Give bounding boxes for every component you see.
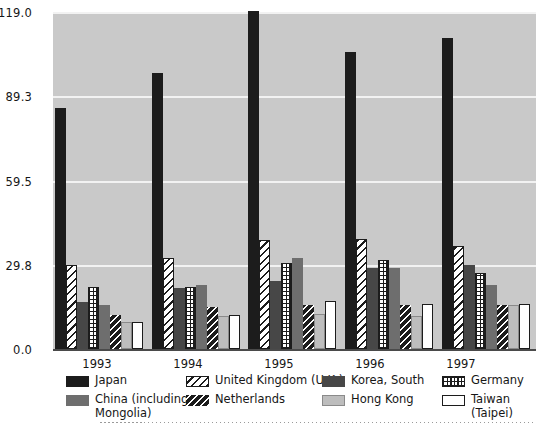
bar-1993-hong-kong[interactable] bbox=[121, 322, 132, 349]
bar-group-1996 bbox=[343, 12, 440, 349]
legend-label-japan: Japan bbox=[95, 374, 127, 388]
bar-1995-japan[interactable] bbox=[248, 11, 259, 349]
bar-1997-taiwan-taipei[interactable] bbox=[519, 304, 530, 349]
bar-1996-germany[interactable] bbox=[378, 260, 389, 349]
bar-1994-china-including-mongolia[interactable] bbox=[196, 285, 207, 349]
bar-1995-china-including-mongolia[interactable] bbox=[292, 258, 303, 349]
bar-1994-netherlands[interactable] bbox=[207, 307, 218, 349]
y-tick-label-29: 29.8 bbox=[0, 259, 32, 273]
legend-label-hong-kong: Hong Kong bbox=[351, 393, 414, 407]
legend-label-taiwan: Taiwan (Taipei) bbox=[471, 393, 513, 420]
legend-label-china: China (including Mongolia) bbox=[95, 393, 188, 420]
legend-swatch-japan bbox=[66, 376, 89, 387]
bar-1995-united-kingdom-uk[interactable] bbox=[259, 240, 270, 349]
legend-item-germany[interactable]: Germany bbox=[442, 374, 536, 388]
bar-1994-taiwan-taipei[interactable] bbox=[229, 315, 240, 349]
legend-item-hong-kong[interactable]: Hong Kong bbox=[322, 393, 452, 407]
y-tick-label-0: 0.0 bbox=[0, 343, 32, 357]
bar-1995-korea-south[interactable] bbox=[270, 281, 281, 349]
bars-layer bbox=[53, 12, 536, 349]
bar-group-1993 bbox=[53, 12, 150, 349]
bar-1995-taiwan-taipei[interactable] bbox=[325, 301, 336, 349]
bar-1996-taiwan-taipei[interactable] bbox=[422, 304, 433, 349]
bar-1997-japan[interactable] bbox=[442, 38, 453, 350]
x-tick-label-1993: 1993 bbox=[52, 357, 142, 371]
bar-1993-taiwan-taipei[interactable] bbox=[132, 322, 143, 349]
bar-1994-korea-south[interactable] bbox=[174, 288, 185, 349]
legend-item-china[interactable]: China (including Mongolia) bbox=[66, 393, 191, 420]
bar-group-1997 bbox=[439, 12, 536, 349]
bar-1993-china-including-mongolia[interactable] bbox=[99, 305, 110, 349]
x-tick-label-1997: 1997 bbox=[416, 357, 506, 371]
x-tick-label-1994: 1994 bbox=[143, 357, 233, 371]
x-tick-label-1996: 1996 bbox=[325, 357, 415, 371]
bar-1997-china-including-mongolia[interactable] bbox=[486, 285, 497, 349]
legend-swatch-korea-south bbox=[322, 376, 345, 387]
bar-1997-netherlands[interactable] bbox=[497, 305, 508, 349]
bar-1997-hong-kong[interactable] bbox=[508, 305, 519, 349]
bar-1996-hong-kong[interactable] bbox=[411, 316, 422, 349]
bar-1994-germany[interactable] bbox=[185, 287, 196, 349]
bar-group-1995 bbox=[246, 12, 343, 349]
legend-label-korea-south: Korea, South bbox=[351, 374, 424, 388]
legend-swatch-china bbox=[66, 395, 89, 406]
bar-1993-korea-south[interactable] bbox=[77, 302, 88, 349]
bar-1996-united-kingdom-uk[interactable] bbox=[356, 239, 367, 349]
legend-swatch-hong-kong bbox=[322, 395, 345, 406]
x-tick-label-1995: 1995 bbox=[234, 357, 324, 371]
bar-1994-japan[interactable] bbox=[152, 73, 163, 349]
legend-swatch-taiwan bbox=[442, 395, 465, 406]
bar-1996-netherlands[interactable] bbox=[400, 305, 411, 349]
bar-1996-china-including-mongolia[interactable] bbox=[389, 268, 400, 349]
bar-chart: 119.0 89.3 59.5 29.8 0.0 1993 1994 1995 … bbox=[0, 0, 536, 431]
y-tick-label-59: 59.5 bbox=[0, 175, 32, 189]
legend-swatch-germany bbox=[442, 376, 465, 387]
bar-1995-hong-kong[interactable] bbox=[314, 314, 325, 349]
bar-1996-japan[interactable] bbox=[345, 52, 356, 349]
legend-item-netherlands[interactable]: Netherlands bbox=[186, 393, 326, 407]
y-tick-label-119: 119.0 bbox=[0, 6, 32, 20]
legend: Japan United Kingdom (U.K.) Korea, South… bbox=[0, 374, 536, 424]
bar-1995-germany[interactable] bbox=[281, 263, 292, 349]
bar-1993-germany[interactable] bbox=[88, 287, 99, 349]
x-axis-line bbox=[53, 349, 536, 351]
legend-swatch-netherlands bbox=[186, 395, 209, 406]
legend-label-germany: Germany bbox=[471, 374, 524, 388]
bar-1997-united-kingdom-uk[interactable] bbox=[453, 246, 464, 349]
bar-1993-netherlands[interactable] bbox=[110, 315, 121, 349]
bar-1997-germany[interactable] bbox=[475, 273, 486, 349]
bar-1994-hong-kong[interactable] bbox=[218, 316, 229, 349]
y-tick-label-89: 89.3 bbox=[0, 90, 32, 104]
legend-item-korea-south[interactable]: Korea, South bbox=[322, 374, 452, 388]
bar-1995-netherlands[interactable] bbox=[303, 305, 314, 349]
bar-group-1994 bbox=[150, 12, 247, 349]
legend-item-taiwan[interactable]: Taiwan (Taipei) bbox=[442, 393, 536, 420]
bar-1993-united-kingdom-uk[interactable] bbox=[66, 265, 77, 349]
bar-1993-japan[interactable] bbox=[55, 108, 66, 349]
legend-label-netherlands: Netherlands bbox=[215, 393, 285, 407]
bar-1996-korea-south[interactable] bbox=[367, 268, 378, 349]
bar-1997-korea-south[interactable] bbox=[464, 265, 475, 349]
legend-swatch-united-kingdom bbox=[186, 376, 209, 387]
footer-divider bbox=[100, 422, 536, 423]
bar-1994-united-kingdom-uk[interactable] bbox=[163, 258, 174, 349]
